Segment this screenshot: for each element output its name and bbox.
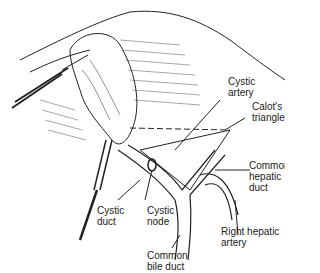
label-line: Cystic xyxy=(147,205,174,216)
label-line: Common xyxy=(147,250,188,261)
label-line: triangle xyxy=(252,112,285,123)
label-line: Cystic xyxy=(97,205,124,216)
label-calots-triangle: Calot's triangle xyxy=(252,101,285,123)
label-line: node xyxy=(147,216,174,227)
label-line: hepatic xyxy=(249,171,285,182)
liver-edge xyxy=(20,11,285,80)
rha-shape xyxy=(200,174,238,215)
label-common-hepatic-duct: Common hepatic duct xyxy=(249,160,285,193)
label-cystic-duct: Cystic duct xyxy=(97,205,124,227)
label-cystic-node: Cystic node xyxy=(147,205,174,227)
label-right-hepatic-artery: Right hepatic artery xyxy=(221,226,279,248)
label-line: artery xyxy=(228,87,255,98)
label-line: Common xyxy=(249,160,285,171)
label-common-bile-duct: Common bile duct xyxy=(147,250,188,272)
label-line: Right hepatic xyxy=(221,226,279,237)
label-cystic-artery: Cystic artery xyxy=(228,76,255,98)
label-line: duct xyxy=(249,182,285,193)
label-line: Cystic xyxy=(228,76,255,87)
label-line: artery xyxy=(221,237,279,248)
gallbladder xyxy=(70,34,137,144)
label-line: bile duct xyxy=(147,261,188,272)
label-line: duct xyxy=(97,216,124,227)
label-line: Calot's xyxy=(252,101,285,112)
